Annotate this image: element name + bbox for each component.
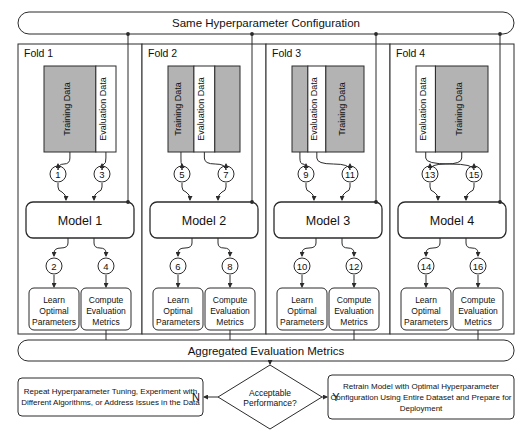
repeat-tuning-line-2: Different Algorithms, or Address Issues …	[21, 398, 200, 407]
diagram-canvas: Same Hyperparameter ConfigurationFold 1T…	[0, 0, 532, 438]
marker-1-label: 1	[55, 169, 60, 180]
marker-15-label: 15	[469, 169, 480, 180]
marker-7-label: 7	[223, 169, 228, 180]
compute-box-line-1-0: Compute	[89, 295, 124, 305]
marker-3-label: 3	[99, 169, 104, 180]
hyperparameter-config-label: Same Hyperparameter Configuration	[172, 17, 360, 29]
compute-box-line-4-0: Compute	[461, 295, 496, 305]
data-segment-label-evaluation-f2: Evaluation Data	[196, 77, 206, 141]
hyperparam-join-1	[126, 200, 130, 204]
retrain-model-line-3: Deployment	[400, 404, 443, 413]
learn-box-line-4-0: Learn	[415, 295, 437, 305]
compute-box-line-4-2: Metrics	[464, 317, 491, 327]
fold-label-3: Fold 3	[272, 47, 301, 59]
marker-14-label: 14	[421, 261, 432, 272]
learn-box-line-1-0: Learn	[43, 295, 65, 305]
compute-box-line-2-1: Evaluation	[210, 306, 250, 316]
marker-2-label: 2	[51, 261, 56, 272]
model-label-1: Model 1	[58, 214, 103, 228]
learn-box-line-2-2: Parameters	[156, 317, 200, 327]
model-label-3: Model 3	[306, 214, 351, 228]
marker-13-label: 13	[425, 169, 436, 180]
retrain-model-line-1: Retrain Model with Optimal Hyperparamete…	[343, 382, 499, 391]
decision-yes-label: Y	[332, 391, 340, 403]
learn-box-line-1-1: Optimal	[39, 306, 68, 316]
data-segment-label-evaluation-f1: Evaluation Data	[98, 77, 108, 141]
data-segment-label-training-f2: Training Data	[173, 82, 183, 136]
data-segment-training-f2-2	[215, 66, 240, 152]
learn-box-line-3-1: Optimal	[287, 306, 316, 316]
fold-label-4: Fold 4	[396, 47, 425, 59]
model-label-2: Model 2	[182, 214, 227, 228]
marker-4-label: 4	[103, 261, 108, 272]
data-segment-training-f3-0	[292, 66, 308, 152]
model-label-4: Model 4	[430, 214, 475, 228]
learn-box-line-3-0: Learn	[291, 295, 313, 305]
marker-5-label: 5	[179, 169, 184, 180]
data-segment-label-training-f1: Training Data	[62, 82, 72, 136]
data-segment-label-training-f3: Training Data	[337, 82, 347, 136]
decision-line-1: Acceptable	[249, 388, 291, 398]
hyperparam-join-2	[250, 200, 254, 204]
learn-box-line-4-1: Optimal	[411, 306, 440, 316]
marker-6-label: 6	[175, 261, 180, 272]
learn-box-line-4-2: Parameters	[404, 317, 448, 327]
learn-box-line-2-1: Optimal	[163, 306, 192, 316]
learn-box-line-2-0: Learn	[167, 295, 189, 305]
data-segment-label-evaluation-f3: Evaluation Data	[309, 77, 319, 141]
compute-box-line-4-1: Evaluation	[458, 306, 498, 316]
fold-label-1: Fold 1	[24, 47, 53, 59]
hyperparam-join-4	[498, 200, 502, 204]
data-segment-label-evaluation-f4: Evaluation Data	[418, 77, 428, 141]
retrain-model-line-2: Configuration Using Entire Dataset and P…	[331, 393, 512, 402]
marker-9-label: 9	[303, 169, 308, 180]
marker-12-label: 12	[349, 261, 360, 272]
marker-11-label: 11	[345, 169, 355, 180]
data-segment-label-training-f4: Training Data	[454, 82, 464, 136]
marker-16-label: 16	[473, 261, 484, 272]
marker-8-label: 8	[227, 261, 232, 272]
aggregated-metrics-label: Aggregated Evaluation Metrics	[188, 345, 345, 357]
marker-10-label: 10	[297, 261, 308, 272]
compute-box-line-2-2: Metrics	[216, 317, 243, 327]
decision-no-label: N	[192, 391, 200, 403]
fold-label-2: Fold 2	[148, 47, 177, 59]
compute-box-line-1-1: Evaluation	[86, 306, 126, 316]
compute-box-line-3-2: Metrics	[340, 317, 367, 327]
learn-box-line-1-2: Parameters	[32, 317, 76, 327]
hyperparam-join-3	[374, 200, 378, 204]
compute-box-line-1-2: Metrics	[92, 317, 119, 327]
compute-box-line-3-0: Compute	[337, 295, 372, 305]
compute-box-line-2-0: Compute	[213, 295, 248, 305]
workflow-diagram: Same Hyperparameter ConfigurationFold 1T…	[0, 0, 532, 438]
repeat-tuning-line-1: Repeat Hyperparameter Tuning, Experiment…	[24, 387, 197, 396]
decision-line-2: Performance?	[243, 398, 297, 408]
learn-box-line-3-2: Parameters	[280, 317, 324, 327]
repeat-tuning-box[interactable]	[18, 378, 203, 416]
compute-box-line-3-1: Evaluation	[334, 306, 374, 316]
